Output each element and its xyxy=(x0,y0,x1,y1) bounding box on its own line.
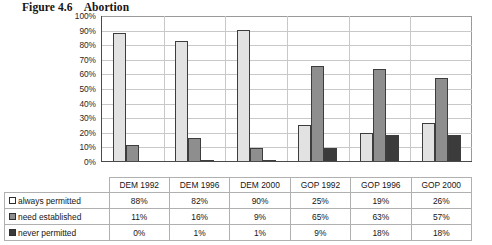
y-axis-tick-label: 60% xyxy=(79,70,96,78)
bar-never-permitted-GOP-2000 xyxy=(448,135,461,161)
table-cell: 26% xyxy=(411,193,471,209)
table-cell: 88% xyxy=(109,193,169,209)
bar-need-established-DEM-1996 xyxy=(188,138,201,161)
figure-number: Figure 4.6 xyxy=(22,1,73,13)
bar-group-bars xyxy=(164,16,226,161)
table-row: always permitted88%82%90%25%19%26% xyxy=(5,193,472,209)
figure-container: Figure 4.6Abortion 100%90%80%70%60%50%40… xyxy=(0,0,492,245)
bar-group xyxy=(102,16,164,161)
bar-never-permitted-DEM-2000 xyxy=(263,160,276,161)
table-cell: 18% xyxy=(351,225,411,241)
table-head: DEM 1992DEM 1996DEM 2000GOP 1992GOP 1996… xyxy=(5,178,472,193)
bar-chart: 100%90%80%70%60%50%40%30%20%10%0% xyxy=(60,16,472,178)
table-cell: 90% xyxy=(230,193,290,209)
table-cell: 1% xyxy=(169,225,229,241)
legend-label: never permitted xyxy=(18,228,76,238)
bar-group-bars xyxy=(102,16,164,161)
legend-swatch-icon xyxy=(9,213,16,220)
table-cell: 18% xyxy=(411,225,471,241)
bar-group-bars xyxy=(410,16,472,161)
table-column-header: GOP 1996 xyxy=(351,178,411,193)
bar-group-bars xyxy=(225,16,287,161)
table-column-header: GOP 1992 xyxy=(290,178,350,193)
table-body: always permitted88%82%90%25%19%26%need e… xyxy=(5,193,472,241)
table-cell: 25% xyxy=(290,193,350,209)
table-corner-cell xyxy=(5,178,110,193)
legend-swatch-icon xyxy=(9,229,16,236)
bar-need-established-DEM-2000 xyxy=(250,148,263,161)
y-axis-tick-label: 90% xyxy=(79,27,96,35)
bar-never-permitted-GOP-1996 xyxy=(386,135,399,161)
y-axis-labels: 100%90%80%70%60%50%40%30%20%10%0% xyxy=(60,16,98,162)
bar-always-permitted-GOP-1996 xyxy=(360,133,373,161)
legend-label: need established xyxy=(18,212,81,222)
y-axis-tick-label: 20% xyxy=(79,129,96,137)
y-axis-tick-label: 0% xyxy=(84,158,96,166)
bar-group xyxy=(164,16,226,161)
table-cell: 82% xyxy=(169,193,229,209)
bar-group xyxy=(349,16,411,161)
table-cell: 19% xyxy=(351,193,411,209)
legend-cell-never-permitted: never permitted xyxy=(5,225,110,241)
bar-always-permitted-GOP-1992 xyxy=(298,125,311,162)
legend-cell-always-permitted: always permitted xyxy=(5,193,110,209)
table-cell: 11% xyxy=(109,209,169,225)
y-axis-tick-label: 80% xyxy=(79,41,96,49)
bar-group xyxy=(287,16,349,161)
table-cell: 1% xyxy=(230,225,290,241)
table-column-header: GOP 2000 xyxy=(411,178,471,193)
y-axis-tick-label: 70% xyxy=(79,56,96,64)
y-axis-tick-label: 40% xyxy=(79,100,96,108)
y-axis-tick-label: 50% xyxy=(79,85,96,93)
legend-swatch-icon xyxy=(9,197,16,204)
bar-group-bars xyxy=(287,16,349,161)
bar-always-permitted-GOP-2000 xyxy=(422,123,435,161)
bar-always-permitted-DEM-1996 xyxy=(175,41,188,161)
table-cell: 9% xyxy=(290,225,350,241)
table-row: need established11%16%9%65%63%57% xyxy=(5,209,472,225)
table-cell: 16% xyxy=(169,209,229,225)
plot-area xyxy=(101,16,472,162)
legend-cell-need-established: need established xyxy=(5,209,110,225)
table-column-header: DEM 1992 xyxy=(109,178,169,193)
table-column-header: DEM 2000 xyxy=(230,178,290,193)
bar-need-established-GOP-2000 xyxy=(435,78,448,161)
bar-always-permitted-DEM-2000 xyxy=(237,30,250,161)
bar-group xyxy=(410,16,472,161)
bar-never-permitted-DEM-1996 xyxy=(201,160,214,161)
table-cell: 9% xyxy=(230,209,290,225)
bar-need-established-GOP-1992 xyxy=(311,66,324,161)
table-cell: 65% xyxy=(290,209,350,225)
data-table: DEM 1992DEM 1996DEM 2000GOP 1992GOP 1996… xyxy=(4,177,472,241)
table-column-header: DEM 1996 xyxy=(169,178,229,193)
table-row: never permitted0%1%1%9%18%18% xyxy=(5,225,472,241)
bar-group-bars xyxy=(349,16,411,161)
bar-group xyxy=(225,16,287,161)
bar-groups xyxy=(102,16,472,161)
table-cell: 0% xyxy=(109,225,169,241)
table-cell: 57% xyxy=(411,209,471,225)
bar-always-permitted-DEM-1992 xyxy=(113,33,126,161)
y-axis-tick-label: 100% xyxy=(75,12,96,20)
legend-label: always permitted xyxy=(18,196,81,206)
table-cell: 63% xyxy=(351,209,411,225)
bar-need-established-GOP-1996 xyxy=(373,69,386,161)
table-header-row: DEM 1992DEM 1996DEM 2000GOP 1992GOP 1996… xyxy=(5,178,472,193)
bar-need-established-DEM-1992 xyxy=(126,145,139,161)
bar-never-permitted-GOP-1992 xyxy=(324,148,337,161)
y-axis-tick-label: 10% xyxy=(79,143,96,151)
y-axis-tick-label: 30% xyxy=(79,114,96,122)
